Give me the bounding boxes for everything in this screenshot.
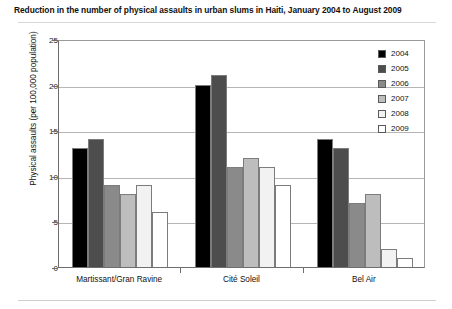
top-divider: [18, 22, 436, 23]
y-tick-mark-5: [52, 222, 58, 223]
bar[interactable]: [136, 185, 152, 267]
bar-group: [195, 41, 291, 267]
x-category-label: Bel Air: [352, 275, 376, 284]
bar[interactable]: [365, 194, 381, 267]
legend-item-2005[interactable]: 2005: [378, 61, 438, 76]
bottom-divider: [18, 300, 436, 301]
bar[interactable]: [72, 148, 88, 267]
bar[interactable]: [397, 258, 413, 267]
bar-group: [72, 41, 168, 267]
x-tick-mark: [180, 268, 181, 273]
y-tick-mark-25: [52, 40, 58, 41]
legend-item-2007[interactable]: 2007: [378, 91, 438, 106]
bar[interactable]: [333, 148, 349, 267]
bar[interactable]: [381, 249, 397, 267]
legend-swatch-icon: [378, 95, 386, 103]
bar[interactable]: [104, 185, 120, 267]
bar[interactable]: [88, 139, 104, 267]
chart-figure: Reduction in the number of physical assa…: [0, 0, 452, 309]
legend-label: 2006: [391, 80, 409, 88]
legend-item-2009[interactable]: 2009: [378, 121, 438, 136]
plot-area: [58, 40, 425, 268]
y-tick-mark-20: [52, 86, 58, 87]
y-axis-tick-labels: 0510152025: [18, 40, 58, 268]
bar[interactable]: [211, 75, 227, 267]
legend-swatch-icon: [378, 110, 386, 118]
bar[interactable]: [120, 194, 136, 267]
legend-item-2008[interactable]: 2008: [378, 106, 438, 121]
legend-swatch-icon: [378, 80, 386, 88]
bar[interactable]: [195, 85, 211, 267]
legend-item-2004[interactable]: 2004: [378, 46, 438, 61]
legend-swatch-icon: [378, 65, 386, 73]
legend-label: 2009: [391, 125, 409, 133]
chart-title: Reduction in the number of physical assa…: [14, 5, 444, 16]
x-category-label: Martissant/Gran Ravine: [76, 275, 162, 284]
legend-label: 2007: [391, 95, 409, 103]
bar[interactable]: [259, 167, 275, 267]
legend-swatch-icon: [378, 125, 386, 133]
chart-legend: 200420052006200720082009: [378, 46, 438, 136]
bar[interactable]: [275, 185, 291, 267]
y-tick-mark-10: [52, 177, 58, 178]
legend-label: 2005: [391, 65, 409, 73]
legend-label: 2008: [391, 110, 409, 118]
bar[interactable]: [227, 167, 243, 267]
bar[interactable]: [349, 203, 365, 267]
y-tick-mark-0: [52, 268, 58, 269]
bar[interactable]: [152, 212, 168, 267]
bar[interactable]: [317, 139, 333, 267]
x-tick-mark: [303, 268, 304, 273]
legend-swatch-icon: [378, 50, 386, 58]
legend-item-2006[interactable]: 2006: [378, 76, 438, 91]
x-category-label: Cité Soleil: [223, 275, 260, 284]
legend-label: 2004: [391, 50, 409, 58]
bar[interactable]: [243, 158, 259, 267]
y-tick-mark-15: [52, 131, 58, 132]
